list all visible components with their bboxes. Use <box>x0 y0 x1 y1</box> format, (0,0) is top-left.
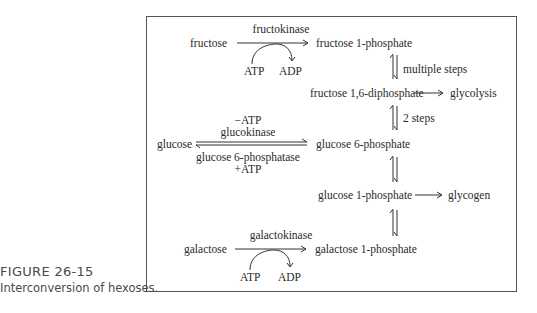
arrow-equilibrium-g6p-g1p <box>390 156 397 182</box>
arrow-equilibrium-glucose-g6p <box>196 139 307 148</box>
figure-description: Interconversion of hexoses. <box>0 281 158 295</box>
arrow-equilibrium-f16dp-g6p <box>390 105 397 130</box>
arrow-equilibrium-f1p-f16dp <box>390 54 397 79</box>
arrow-equilibrium-g1p-gal1p <box>390 209 397 236</box>
arrow-galactose-to-gal1p <box>235 246 306 270</box>
arrow-to-glycogen <box>415 192 442 198</box>
figure-number: FIGURE 26-15 <box>0 264 158 279</box>
figure-caption: FIGURE 26-15 Interconversion of hexoses. <box>0 264 158 295</box>
arrow-to-glycolysis <box>414 90 443 96</box>
arrow-fructose-to-f1p <box>237 40 308 64</box>
